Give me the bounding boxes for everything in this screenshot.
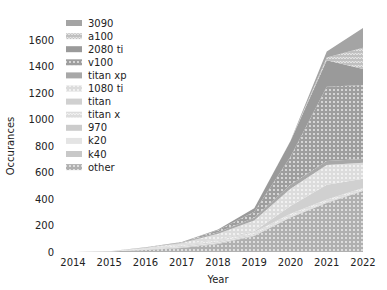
y-tick-label: 1400 xyxy=(29,61,54,72)
y-tick-label: 1000 xyxy=(29,114,54,125)
legend-label: other xyxy=(88,162,116,173)
y-tick-label: 1600 xyxy=(29,35,54,46)
legend-label: v100 xyxy=(88,57,113,68)
legend-label: k40 xyxy=(88,149,107,160)
x-tick-label: 2020 xyxy=(278,257,303,268)
legend-label: titan x xyxy=(88,109,120,120)
legend-label: 2080 ti xyxy=(88,44,123,55)
legend-label: titan xyxy=(88,96,111,107)
legend-swatch xyxy=(66,72,82,78)
stacked-area-chart: 02004006008001000120014001600 2014201520… xyxy=(0,0,387,290)
legend-swatch xyxy=(66,99,82,105)
x-tick-label: 2022 xyxy=(350,257,375,268)
legend-label: 3090 xyxy=(88,18,113,29)
legend-swatch xyxy=(66,20,82,26)
legend-label: a100 xyxy=(88,31,113,42)
legend-swatch xyxy=(66,151,82,157)
y-tick-label: 0 xyxy=(48,247,54,258)
legend-swatch xyxy=(66,46,82,52)
legend-label: titan xp xyxy=(88,70,127,81)
legend-swatch xyxy=(66,138,82,144)
legend-label: k20 xyxy=(88,135,107,146)
x-tick-label: 2017 xyxy=(169,257,194,268)
y-axis-label: Occurances xyxy=(5,117,16,176)
x-tick-label: 2014 xyxy=(60,257,85,268)
x-tick-label: 2019 xyxy=(242,257,267,268)
x-axis-label: Year xyxy=(206,274,229,285)
y-tick-label: 200 xyxy=(35,220,54,231)
y-axis-ticks: 02004006008001000120014001600 xyxy=(29,35,54,258)
x-tick-label: 2018 xyxy=(205,257,230,268)
y-tick-label: 1200 xyxy=(29,88,54,99)
y-tick-label: 600 xyxy=(35,167,54,178)
y-tick-label: 400 xyxy=(35,194,54,205)
legend-label: 970 xyxy=(88,122,107,133)
x-axis-ticks: 201420152016201720182019202020212022 xyxy=(60,257,375,268)
x-tick-label: 2015 xyxy=(97,257,122,268)
legend-label: 1080 ti xyxy=(88,83,123,94)
x-tick-label: 2021 xyxy=(314,257,339,268)
legend-swatch xyxy=(66,125,82,131)
x-tick-label: 2016 xyxy=(133,257,158,268)
y-tick-label: 800 xyxy=(35,141,54,152)
